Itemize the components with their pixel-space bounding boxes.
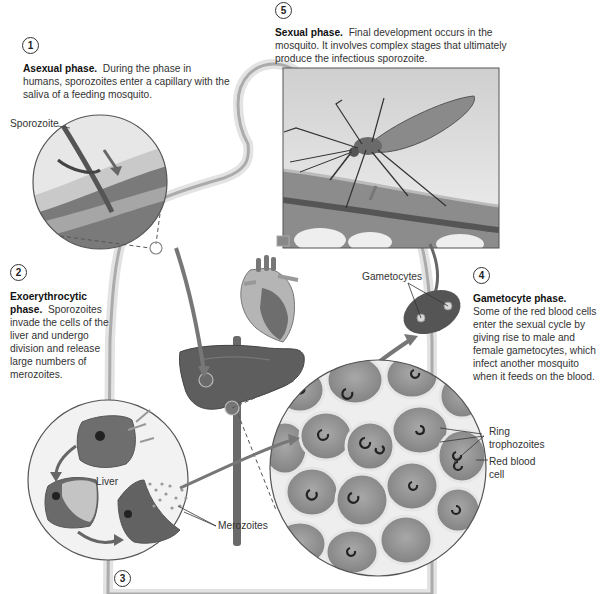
step-1-caption: Asexual phase. During the phase in human… (23, 62, 233, 101)
step-4-title: Gametocyte phase. (473, 293, 566, 304)
step-2-badge: 2 (10, 264, 27, 281)
gametocytes-label: Gametocytes (362, 271, 422, 282)
step-3-badge: 3 (114, 570, 131, 587)
liver-label: Liver (96, 476, 118, 487)
step-1-title: Asexual phase. (23, 63, 97, 74)
ring-trophozoites-line2: trophozoites (489, 439, 545, 450)
step-2-body: Sporozoites invade the cells of the live… (10, 304, 109, 380)
red-blood-cell-line1: Red blood (489, 456, 535, 467)
step-5-badge: 5 (275, 2, 292, 19)
step-2-caption: Exoerythrocytic phase. Sporozoites invad… (10, 290, 115, 381)
merozoites-label: Merozoites (218, 520, 268, 531)
step-4-caption: Gametocyte phase. Some of the red blood … (473, 292, 599, 383)
step-4-body: Some of the red blood cells enter the se… (473, 306, 596, 382)
red-blood-cell-line2: cell (489, 469, 504, 480)
step-5-title: Sexual phase. (275, 27, 343, 38)
red-blood-cell-label: Red blood cell (489, 455, 535, 481)
sporozoite-label: Sporozoite (10, 118, 59, 129)
step-5-caption: Sexual phase. Final development occurs i… (275, 26, 520, 65)
ring-trophozoites-label: Ring trophozoites (489, 425, 545, 451)
ring-trophozoites-line1: Ring (489, 426, 510, 437)
step-4-badge: 4 (473, 267, 490, 284)
step-1-badge: 1 (22, 37, 39, 54)
